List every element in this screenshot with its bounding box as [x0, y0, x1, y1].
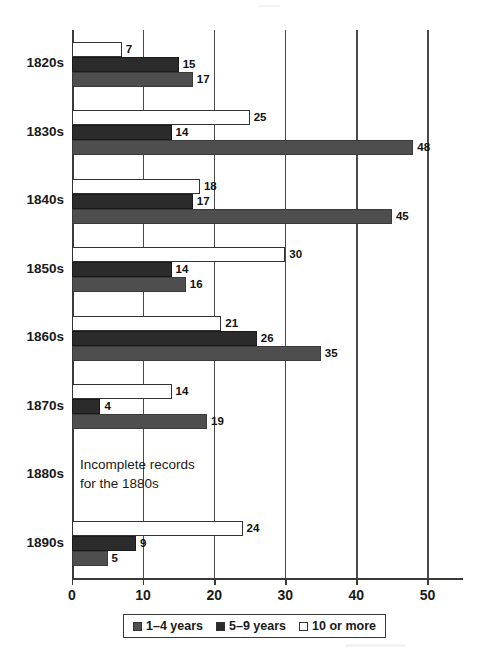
legend-item: 1–4 years [133, 619, 203, 633]
gridline [356, 30, 357, 578]
bar-value-label: 17 [197, 72, 210, 87]
bar [72, 262, 172, 277]
bar [72, 414, 207, 429]
x-axis-tick-label: 30 [277, 587, 293, 603]
bar-value-label: 14 [176, 125, 189, 140]
bar-value-label: 19 [211, 414, 224, 429]
bar-value-label: 45 [396, 209, 409, 224]
legend-swatch-icon [299, 622, 308, 631]
incomplete-records-annotation: Incomplete records for the 1880s [80, 455, 195, 493]
scan-artifact [258, 5, 280, 7]
x-axis-tick [427, 578, 428, 585]
bar [72, 209, 392, 224]
x-axis-tick [285, 578, 286, 585]
bar-value-label: 35 [325, 346, 338, 361]
bar [72, 384, 172, 399]
y-axis-category-label: 1880s [0, 466, 64, 481]
y-axis-category-label: 1870s [0, 398, 64, 413]
x-axis-tick-label: 50 [420, 587, 436, 603]
y-axis-category-label: 1830s [0, 124, 64, 139]
bar-value-label: 5 [112, 551, 118, 566]
bar [72, 521, 243, 536]
y-axis-category-label: 1820s [0, 55, 64, 70]
legend-item: 10 or more [299, 619, 376, 633]
legend-swatch-icon [133, 622, 142, 631]
bar-value-label: 48 [417, 140, 430, 155]
bar [72, 72, 193, 87]
bar [72, 277, 186, 292]
bar [72, 536, 136, 551]
y-axis-category-label: 1850s [0, 261, 64, 276]
bar-value-label: 16 [190, 277, 203, 292]
bar [72, 194, 193, 209]
bar-value-label: 26 [261, 331, 274, 346]
gridline [427, 30, 428, 578]
x-axis-tick [143, 578, 144, 585]
bar [72, 399, 100, 414]
bar-value-label: 21 [225, 316, 238, 331]
legend-label: 5–9 years [229, 619, 286, 633]
legend-label: 1–4 years [146, 619, 203, 633]
legend-item: 5–9 years [216, 619, 286, 633]
bar-value-label: 17 [197, 194, 210, 209]
bar [72, 247, 285, 262]
chart-legend: 1–4 years5–9 years10 or more [123, 614, 386, 638]
bar-value-label: 25 [254, 110, 267, 125]
bar [72, 110, 250, 125]
bar-value-label: 24 [247, 521, 260, 536]
bar-value-label: 18 [204, 179, 217, 194]
x-axis-tick [356, 578, 357, 585]
x-axis-tick-label: 0 [68, 587, 76, 603]
bar [72, 179, 200, 194]
y-axis-category-label: 1860s [0, 329, 64, 344]
scan-artifact [345, 644, 405, 647]
bar-value-label: 7 [126, 42, 132, 57]
bar-value-label: 15 [183, 57, 196, 72]
x-axis-tick [214, 578, 215, 585]
bar [72, 316, 221, 331]
bar-value-label: 14 [176, 384, 189, 399]
bar [72, 551, 108, 566]
y-axis-category-label: 1840s [0, 192, 64, 207]
y-axis-category-label: 1890s [0, 535, 64, 550]
bar-chart: 01020304050 1820s1830s1840s1850s1860s187… [0, 0, 482, 669]
x-axis-tick [72, 578, 73, 585]
bar-value-label: 9 [140, 536, 146, 551]
bar [72, 140, 413, 155]
bar-value-label: 4 [104, 399, 110, 414]
legend-swatch-icon [216, 622, 225, 631]
x-axis-tick-label: 40 [349, 587, 365, 603]
bar [72, 346, 321, 361]
legend-label: 10 or more [312, 619, 376, 633]
bar [72, 331, 257, 346]
bar [72, 42, 122, 57]
x-axis [72, 578, 463, 580]
bar-value-label: 30 [289, 247, 302, 262]
bar [72, 57, 179, 72]
gridline [285, 30, 286, 578]
bar-value-label: 14 [176, 262, 189, 277]
x-axis-tick-label: 10 [135, 587, 151, 603]
x-axis-tick-label: 20 [206, 587, 222, 603]
bar [72, 125, 172, 140]
